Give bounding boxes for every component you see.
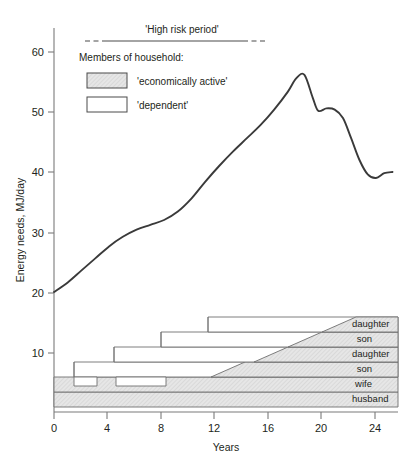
- band-wife-notch-right: [116, 377, 166, 386]
- household-member-bands: [54, 317, 398, 407]
- y-tick-label-20: 20: [32, 287, 44, 299]
- y-axis-ticks: [48, 52, 54, 353]
- band-label-daughter-eldest: daughter: [352, 348, 390, 359]
- legend-item-dependent: 'dependent': [87, 97, 188, 112]
- band-label-son-younger: son: [357, 333, 372, 344]
- y-tick-label-50: 50: [32, 106, 44, 118]
- y-tick-label-40: 40: [32, 166, 44, 178]
- x-axis-ticks: [54, 412, 375, 419]
- x-tick-label-24: 24: [369, 422, 381, 434]
- y-tick-label-30: 30: [32, 227, 44, 239]
- y-axis-title: Energy needs, MJ/day: [14, 177, 26, 282]
- x-tick-label-20: 20: [315, 422, 327, 434]
- x-tick-label-16: 16: [262, 422, 274, 434]
- legend-heading: Members of household:: [79, 52, 184, 63]
- high-risk-period-annotation: 'High risk period': [85, 24, 265, 41]
- band-wife: [54, 377, 398, 392]
- x-tick-label-8: 8: [158, 422, 164, 434]
- legend-item-economically-active: 'economically active': [87, 73, 228, 88]
- band-wife-notch-left: [74, 377, 97, 386]
- band-husband: [54, 392, 398, 407]
- band-label-daughter-youngest: daughter: [352, 318, 390, 329]
- x-axis-title: Years: [213, 441, 239, 453]
- legend-swatch-dependent: [87, 97, 127, 112]
- legend: Members of household: 'economically acti…: [79, 52, 228, 112]
- y-tick-label-10: 10: [32, 347, 44, 359]
- high-risk-period-label: 'High risk period': [145, 24, 218, 35]
- band-label-husband: husband: [352, 393, 388, 404]
- x-tick-label-12: 12: [208, 422, 220, 434]
- band-label-son-eldest: son: [357, 363, 372, 374]
- x-axis-tick-labels: 0 4 8 12 16 20 24: [51, 422, 381, 434]
- energy-needs-chart: 60 50 40 30 20 10 0 4 8 12 16 20 24 Year…: [0, 0, 420, 468]
- legend-label-dependent: 'dependent': [137, 100, 188, 111]
- band-label-wife: wife: [354, 378, 372, 389]
- legend-swatch-economically-active: [87, 73, 127, 88]
- y-tick-label-60: 60: [32, 46, 44, 58]
- y-axis-tick-labels: 60 50 40 30 20 10: [32, 46, 44, 359]
- legend-label-economically-active: 'economically active': [137, 76, 228, 87]
- x-tick-label-0: 0: [51, 422, 57, 434]
- x-tick-label-4: 4: [104, 422, 110, 434]
